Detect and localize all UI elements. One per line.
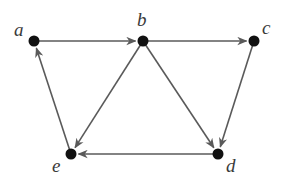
node-label-c: c bbox=[262, 17, 271, 38]
nodes bbox=[29, 36, 260, 160]
edge-c-to-d bbox=[220, 45, 252, 147]
node-labels: abcde bbox=[14, 9, 271, 176]
edge-b-to-e bbox=[75, 45, 141, 148]
node-label-b: b bbox=[137, 9, 147, 30]
edges bbox=[36, 41, 252, 154]
node-d bbox=[213, 149, 224, 160]
directed-graph: abcde bbox=[0, 0, 284, 180]
node-label-e: e bbox=[52, 155, 60, 176]
node-label-d: d bbox=[226, 155, 236, 176]
node-a bbox=[29, 36, 40, 47]
node-e bbox=[66, 149, 77, 160]
node-label-a: a bbox=[14, 19, 24, 40]
node-c bbox=[249, 36, 260, 47]
node-b bbox=[138, 36, 149, 47]
edge-e-to-a bbox=[36, 48, 69, 150]
edge-b-to-d bbox=[145, 45, 213, 148]
